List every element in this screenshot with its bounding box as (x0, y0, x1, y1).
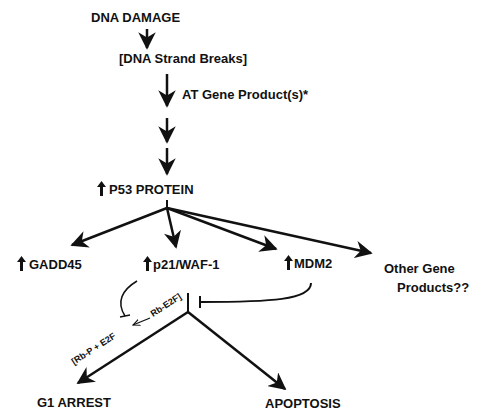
arrow-to-apoptosis (188, 312, 285, 389)
inhibit-p21-to-rb (121, 281, 137, 316)
p53-label: P53 PROTEIN (109, 182, 194, 197)
mdm2-label: MDM2 (294, 256, 332, 271)
node-g1-arrest: G1 ARREST (37, 396, 111, 409)
up-arrow-icon (284, 255, 293, 270)
arrow-rb-conversion (133, 318, 150, 325)
gadd45-label: GADD45 (29, 257, 82, 272)
node-p53-protein: P53 PROTEIN (97, 181, 194, 196)
node-other-gene-line2: Products?? (397, 281, 469, 294)
up-arrow-icon (17, 256, 26, 271)
p21-label: p21/WAF-1 (153, 257, 219, 272)
t-bar-p21 (120, 315, 130, 317)
inhibit-mdm2-to-branch (201, 283, 311, 302)
label-rb-e2f: Rb-E2F] (149, 292, 183, 319)
arrow-p53-to-p21 (167, 208, 176, 247)
node-dna-damage: DNA DAMAGE (91, 11, 180, 24)
up-arrow-icon (143, 256, 152, 271)
node-gadd45: GADD45 (17, 256, 82, 271)
node-other-gene-line1: Other Gene (384, 262, 455, 275)
arrow-p53-to-gadd45 (72, 208, 167, 245)
node-dna-strand-breaks: [DNA Strand Breaks] (119, 52, 247, 65)
node-apoptosis: APOPTOSIS (265, 397, 341, 410)
up-arrow-icon (97, 181, 106, 196)
node-at-gene-product: AT Gene Product(s)* (182, 88, 308, 101)
node-p21-waf1: p21/WAF-1 (143, 256, 219, 271)
node-mdm2: MDM2 (284, 255, 332, 270)
